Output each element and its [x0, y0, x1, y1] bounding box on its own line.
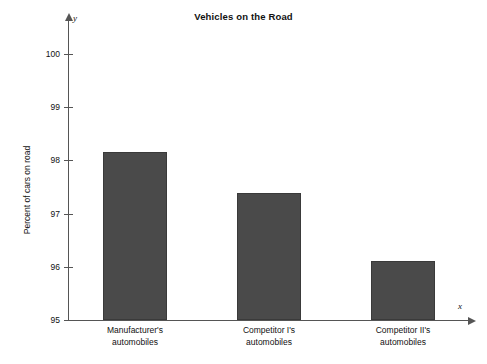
y-tick-mark	[64, 54, 73, 55]
x-axis-line	[68, 320, 470, 321]
x-axis-label-line: automobiles	[75, 337, 195, 349]
y-axis-title: Percent of cars on road	[22, 125, 32, 255]
y-tick-label: 97	[34, 209, 60, 219]
bar-chart: Vehicles on the Road y x Percent of cars…	[0, 0, 487, 364]
x-axis-label-line: Manufacturer's	[75, 325, 195, 337]
bar	[103, 152, 167, 320]
bar	[237, 193, 301, 320]
x-axis-variable-label: x	[458, 301, 462, 311]
y-tick-label-text: 95	[34, 315, 60, 325]
y-axis-arrow-icon	[65, 13, 73, 21]
y-tick-label-text: 100	[34, 49, 60, 59]
y-tick-mark	[64, 320, 73, 321]
x-axis-label-line: Competitor II's	[343, 325, 463, 337]
y-tick-label-text: 96	[34, 262, 60, 272]
y-tick-mark	[64, 160, 73, 161]
y-tick-label: 96	[34, 262, 60, 272]
x-axis-label: Competitor I'sautomobiles	[209, 325, 329, 348]
bar	[371, 261, 435, 320]
x-axis-label: Manufacturer'sautomobiles	[75, 325, 195, 348]
y-tick-label: 99	[34, 102, 60, 112]
y-tick-label-text: 97	[34, 209, 60, 219]
x-axis-label-line: automobiles	[209, 337, 329, 349]
y-tick-label-text: 98	[34, 155, 60, 165]
y-tick-mark	[64, 107, 73, 108]
y-axis-line	[68, 20, 69, 320]
y-tick-label: 95	[34, 315, 60, 325]
x-axis-label: Competitor II'sautomobiles	[343, 325, 463, 348]
y-tick-mark	[64, 267, 73, 268]
y-tick-mark	[64, 214, 73, 215]
x-axis-arrow-icon	[468, 317, 476, 325]
x-axis-label-line: Competitor I's	[209, 325, 329, 337]
y-tick-label: 100	[34, 49, 60, 59]
y-axis-variable-label: y	[73, 13, 77, 23]
y-tick-label: 98	[34, 155, 60, 165]
y-tick-label-text: 99	[34, 102, 60, 112]
x-axis-label-line: automobiles	[343, 337, 463, 349]
